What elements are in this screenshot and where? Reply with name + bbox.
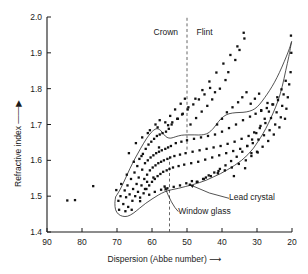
y-tick-label-1-8: 1.8 [20, 84, 42, 94]
x-tick-label-70: 70 [105, 237, 129, 247]
x-tick-label-40: 40 [210, 237, 234, 247]
x-tick-label-60: 60 [140, 237, 164, 247]
y-tick-label-1-5: 1.5 [20, 191, 42, 201]
y-tick-label-2-0: 2.0 [20, 12, 42, 22]
y-tick-label-1-7: 1.7 [20, 120, 42, 130]
region-label-crown: Crown [154, 28, 179, 37]
x-tick-label-90: 90 [35, 237, 59, 247]
abbe-diagram-figure: 90807060504030201.41.51.61.71.81.92.0Cro… [0, 0, 308, 274]
scatter-points [66, 32, 292, 213]
x-tick-label-50: 50 [175, 237, 199, 247]
plot-canvas [0, 0, 308, 274]
region-label-flint: Flint [197, 28, 213, 37]
y-tick-label-1-6: 1.6 [20, 155, 42, 165]
callout-label-window-glass: Window glass [178, 207, 230, 216]
x-tick-label-30: 30 [245, 237, 269, 247]
y-tick-label-1-4: 1.4 [20, 227, 42, 237]
y-axis-title: Refractive index ——▶ [13, 100, 23, 187]
x-tick-label-20: 20 [280, 237, 304, 247]
glass-envelope-outline [115, 41, 292, 216]
callout-label-lead-crystal: Lead crystal [229, 193, 275, 202]
y-tick-label-1-9: 1.9 [20, 48, 42, 58]
x-tick-label-80: 80 [70, 237, 94, 247]
x-axis-title: Dispersion (Abbe number) ⟶ [108, 254, 222, 264]
